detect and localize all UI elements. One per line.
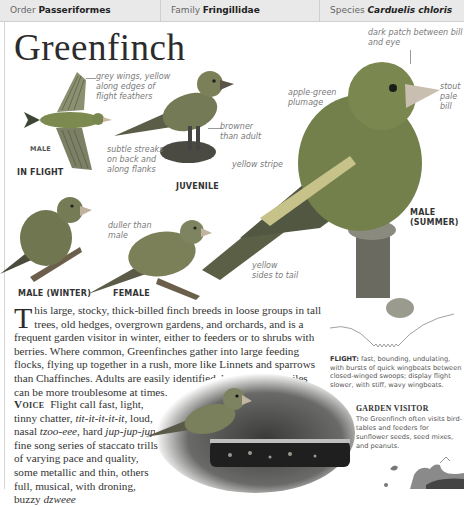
annotation-dark-patch: dark patch between bill and eye	[368, 28, 464, 48]
caption-in-flight: IN FLIGHT	[17, 168, 64, 177]
bird-male-winter-illustration	[0, 192, 95, 287]
order-label: Order	[10, 5, 36, 15]
garden-visitor-text: The Greenfinch often visits bird-tables …	[356, 415, 462, 451]
garden-visitor-title: GARDEN VISITOR	[356, 404, 429, 413]
caption-male-summer-line2: (SUMMER)	[410, 218, 459, 228]
flight-description: FLIGHT: fast, bounding, undulating, with…	[330, 355, 462, 389]
family-label: Family	[171, 5, 200, 15]
voice-call: dzweee	[44, 493, 76, 505]
caption-male-summer-line1: MALE	[410, 208, 459, 218]
garden-feeder-photo	[140, 375, 350, 489]
annotation-stout-bill: stout pale bill	[440, 82, 462, 112]
leader-line	[410, 50, 411, 64]
family-cell: Family Fringillidae	[161, 0, 320, 21]
flight-pattern-diagram	[330, 300, 464, 352]
caption-male-flight: MALE	[30, 145, 51, 153]
caption-female: FEMALE	[113, 289, 150, 298]
order-cell: Order Passeriformes	[0, 0, 161, 21]
drop-cap: T	[14, 305, 32, 331]
voice-call: tzoo-eee	[40, 425, 77, 437]
leader-line	[86, 78, 96, 79]
caption-male-summer: MALE (SUMMER)	[410, 208, 459, 228]
annotation-subtle-streaks: subtle streaks on back and along flanks	[107, 145, 171, 175]
annotation-streaks-text: subtle streaks on back and along flanks	[107, 145, 163, 174]
distribution-map	[380, 455, 464, 489]
annotation-apple-green: apple-green plumage	[288, 88, 344, 108]
order-value: Passeriformes	[38, 5, 110, 15]
voice-text: , hard	[77, 425, 105, 437]
annotation-yellow-tail: yellow sides to tail	[252, 261, 300, 281]
species-label: Species	[330, 5, 365, 15]
page-title: Greenfinch	[14, 26, 185, 69]
taxonomy-header: Order Passeriformes Family Fringillidae …	[0, 0, 464, 22]
species-cell: Species Carduelis chloris	[320, 0, 464, 21]
caption-male-winter: MALE (WINTER)	[18, 289, 91, 298]
bird-male-summer-illustration	[200, 48, 450, 298]
family-value: Fringillidae	[203, 5, 260, 15]
annotation-duller: duller than male	[108, 221, 154, 241]
voice-label: Voice	[14, 398, 45, 410]
voice-call: tit-it-it-it-it	[75, 412, 124, 424]
species-value: Carduelis chloris	[368, 5, 453, 15]
flight-label: FLIGHT:	[330, 355, 359, 363]
annotation-yellow-stripe: yellow stripe	[232, 160, 283, 170]
